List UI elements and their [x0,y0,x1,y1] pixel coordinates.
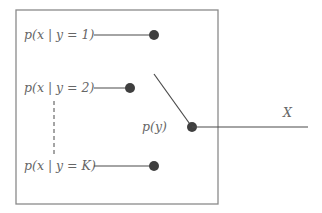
component-k-label: p(x | y = K) [24,158,96,173]
component-2-label: p(x | y = 2) [24,80,95,95]
component-2-terminal [125,83,135,93]
mixture-diagram: p(x | y = 1) p(x | y = 2) p(x | y = K) p… [0,0,322,213]
component-1-terminal [149,30,159,40]
component-k-terminal [149,161,159,171]
selector-label: p(y) [142,119,167,134]
output-label: X [282,105,293,120]
component-1-label: p(x | y = 1) [24,27,95,42]
